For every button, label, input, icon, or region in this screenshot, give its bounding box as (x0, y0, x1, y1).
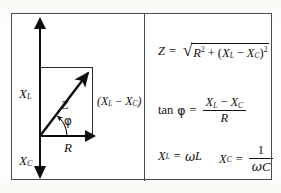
capacitive-denominator: ωC (249, 158, 274, 174)
omega-symbol: ω (185, 149, 195, 164)
inductance-symbol: L (195, 149, 202, 164)
formula-capacitive-reactance: XC = 1 ωC (219, 144, 275, 174)
label-reactance-difference: (XL−XC) (97, 95, 142, 108)
formula-panel: Z = √ R2+(XL−XC)2 tan φ = XL−XC R XL (145, 14, 273, 181)
figure-frame: XL XC Z R φ (XL−XC) Z = √ R2+(XL−XC)2 ta… (11, 13, 272, 180)
formula-xc-lhs: X (219, 152, 227, 167)
formula-inductive-reactance: XL = ωL (158, 149, 202, 164)
capacitive-fraction: 1 ωC (249, 144, 274, 174)
phasor-diagram: XL XC Z R φ (XL−XC) (12, 14, 144, 181)
radical-group: √ R2+(XL−XC)2 (183, 43, 269, 61)
tangent-denominator: R (203, 110, 247, 125)
label-inductive-reactance: XL (19, 87, 31, 102)
formula-tangent-phi: φ (177, 103, 185, 118)
label-resistance: R (64, 141, 72, 154)
label-phase-angle: φ (64, 115, 72, 127)
formula-xl-equals: = (174, 149, 181, 164)
tangent-fraction: XL−XC R (203, 96, 247, 126)
tan-operator: tan (158, 103, 173, 118)
formula-tangent-equals: = (190, 103, 197, 118)
formula-tangent: tan φ = XL−XC R (158, 96, 248, 126)
formula-xl-lhs: X (158, 149, 166, 164)
capacitive-numerator: 1 (255, 144, 267, 158)
tangent-numerator: XL−XC (203, 96, 247, 110)
label-impedance: Z (61, 98, 68, 111)
label-capacitive-reactance: XC (19, 154, 32, 169)
formula-impedance: Z = √ R2+(XL−XC)2 (158, 43, 269, 61)
figure-root: XL XC Z R φ (XL−XC) Z = √ R2+(XL−XC)2 ta… (0, 0, 281, 193)
radicand: R2+(XL−XC)2 (191, 43, 269, 61)
formula-impedance-lhs: Z (158, 44, 165, 59)
radical-sign-icon: √ (183, 42, 192, 60)
formula-xc-equals: = (236, 152, 243, 167)
formula-impedance-equals: = (169, 44, 176, 59)
